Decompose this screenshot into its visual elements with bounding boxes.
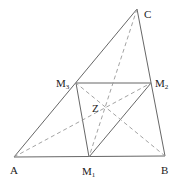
- triangle-medians-diagram: A B C Z M1 M2 M3: [0, 0, 181, 182]
- label-m1-main: M: [82, 165, 92, 177]
- median-b-m3: [76, 83, 165, 156]
- segment-m1-m2: [89, 83, 151, 157]
- label-b: B: [161, 164, 168, 176]
- label-m1-sub: 1: [92, 171, 96, 179]
- label-m2: M2: [155, 77, 169, 91]
- label-m3-sub: 3: [66, 83, 70, 91]
- medial-triangle: [76, 83, 151, 157]
- label-m3: M3: [56, 77, 70, 91]
- label-a: A: [10, 164, 18, 176]
- label-m3-main: M: [56, 77, 66, 89]
- label-m2-sub: 2: [165, 83, 169, 91]
- label-c: C: [144, 8, 151, 20]
- median-a-m2: [14, 83, 151, 157]
- label-m1: M1: [82, 165, 96, 179]
- label-m2-main: M: [155, 77, 165, 89]
- label-z: Z: [92, 102, 99, 114]
